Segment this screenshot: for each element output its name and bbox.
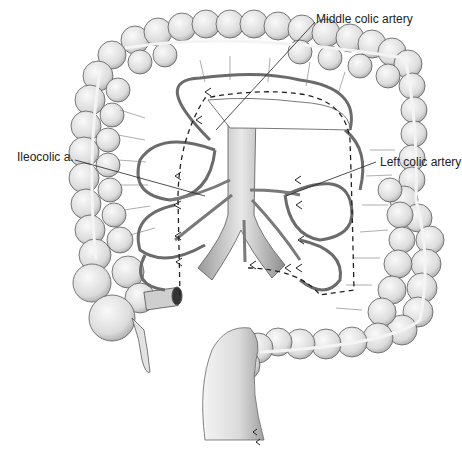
rectum (203, 328, 264, 445)
colon (69, 10, 444, 381)
label-middle-colic-artery: Middle colic artery (316, 12, 413, 26)
descending-colon (368, 73, 444, 345)
label-ileocolic-artery: Ileocolic a. (17, 150, 74, 164)
appendix (132, 318, 150, 373)
colon-vasculature-illustration (0, 0, 462, 469)
aorta (198, 98, 350, 280)
label-left-colic-artery: Left colic artery (380, 155, 461, 169)
ascending-colon (69, 41, 133, 271)
